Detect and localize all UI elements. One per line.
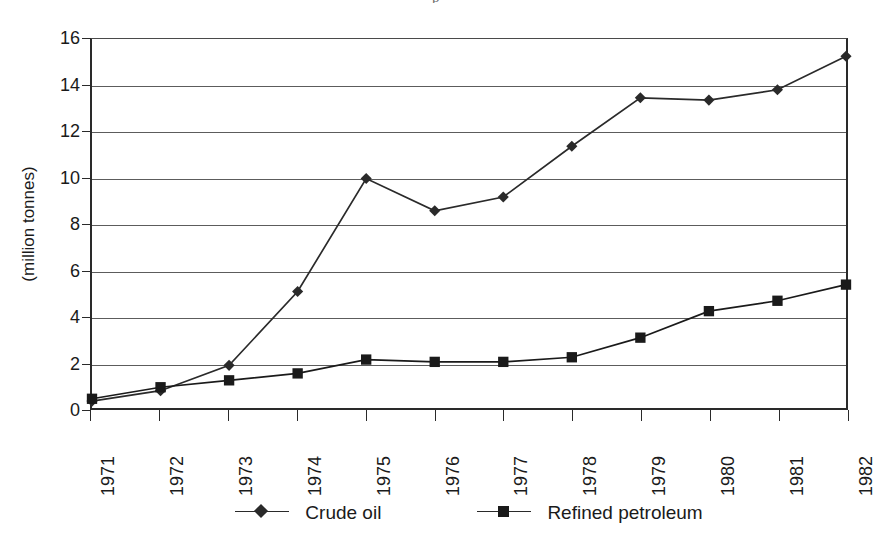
data-point-1976-8.55 — [429, 205, 440, 216]
x-tick-label-1980: 1980 — [719, 428, 737, 498]
data-point-1972-0.9 — [155, 382, 165, 392]
y-tick-label-10: 10 — [46, 169, 80, 187]
data-point-1981-4.65 — [772, 296, 782, 306]
series-refined-petroleum — [87, 279, 851, 403]
x-tick-1982 — [848, 410, 849, 421]
y-tick-2 — [82, 364, 91, 365]
y-tick-12 — [82, 131, 91, 132]
y-tick-label-6: 6 — [46, 262, 80, 280]
x-tick-label-1976: 1976 — [444, 428, 462, 498]
x-tick-label-text: 1973 — [237, 426, 255, 498]
y-tick-label-8: 8 — [46, 215, 80, 233]
x-tick-1977 — [503, 410, 504, 421]
diamond-marker-icon — [235, 505, 289, 519]
chart-legend: Crude oilRefined petroleum — [90, 496, 848, 528]
y-tick-8 — [82, 224, 91, 225]
x-tick-label-text: 1978 — [581, 426, 599, 498]
data-point-1975-9.95 — [361, 173, 372, 184]
clipped-text-artifact: p — [432, 0, 446, 3]
y-tick-label-4: 4 — [46, 308, 80, 326]
legend-item-crude-oil[interactable]: Crude oil — [235, 503, 381, 522]
x-tick-1975 — [366, 410, 367, 421]
plot-area — [90, 38, 848, 410]
x-tick-label-text: 1972 — [168, 426, 186, 498]
x-tick-label-1974: 1974 — [306, 428, 324, 498]
y-tick-label-12: 12 — [46, 122, 80, 140]
x-tick-label-1978: 1978 — [581, 428, 599, 498]
y-tick-10 — [82, 178, 91, 179]
x-tick-1979 — [641, 410, 642, 421]
series-line — [92, 56, 846, 401]
x-tick-label-1977: 1977 — [512, 428, 530, 498]
x-tick-1974 — [297, 410, 298, 421]
data-point-1973-1.2 — [224, 375, 234, 385]
y-tick-4 — [82, 317, 91, 318]
data-point-1980-13.35 — [703, 95, 714, 106]
y-tick-label-14: 14 — [46, 76, 80, 94]
x-tick-label-1972: 1972 — [168, 428, 186, 498]
x-tick-label-text: 1979 — [650, 426, 668, 498]
data-point-1982-15.25 — [840, 51, 851, 62]
data-point-1980-4.2 — [704, 306, 714, 316]
x-tick-label-text: 1971 — [99, 426, 117, 498]
x-tick-label-1979: 1979 — [650, 428, 668, 498]
data-point-1979-13.45 — [635, 92, 646, 103]
series-crude-oil — [86, 51, 851, 407]
data-point-1974-1.5 — [292, 368, 302, 378]
x-tick-label-1982: 1982 — [857, 428, 873, 498]
series-layer — [92, 39, 846, 408]
legend-label: Refined petroleum — [547, 503, 702, 522]
data-point-1979-3.05 — [635, 333, 645, 343]
y-tick-label-16: 16 — [46, 29, 80, 47]
x-tick-label-text: 1977 — [512, 426, 530, 498]
data-point-1981-13.8 — [772, 84, 783, 95]
y-tick-6 — [82, 271, 91, 272]
data-point-1976-2 — [430, 357, 440, 367]
data-point-1971-0.4 — [87, 394, 97, 404]
x-tick-label-text: 1981 — [788, 426, 806, 498]
series-line — [92, 285, 846, 399]
x-tick-1978 — [572, 410, 573, 421]
x-tick-label-text: 1982 — [857, 426, 873, 498]
y-tick-label-2: 2 — [46, 355, 80, 373]
x-tick-label-text: 1975 — [375, 426, 393, 498]
legend-diamond — [254, 504, 268, 518]
legend-item-refined-petroleum[interactable]: Refined petroleum — [477, 503, 702, 522]
x-tick-1976 — [435, 410, 436, 421]
x-tick-1973 — [228, 410, 229, 421]
x-tick-label-text: 1976 — [444, 426, 462, 498]
x-tick-label-1971: 1971 — [99, 428, 117, 498]
x-tick-label-1981: 1981 — [788, 428, 806, 498]
x-tick-1971 — [90, 410, 91, 421]
y-tick-14 — [82, 85, 91, 86]
x-tick-label-1973: 1973 — [237, 428, 255, 498]
x-tick-label-1975: 1975 — [375, 428, 393, 498]
data-point-1982-5.35 — [841, 279, 851, 289]
y-tick-16 — [82, 38, 91, 39]
legend-label: Crude oil — [305, 503, 381, 522]
data-point-1977-2 — [498, 357, 508, 367]
y-tick-label-0: 0 — [46, 401, 80, 419]
legend-square — [498, 506, 509, 517]
x-tick-1980 — [710, 410, 711, 421]
x-tick-label-text: 1974 — [306, 426, 324, 498]
x-tick-1981 — [779, 410, 780, 421]
data-point-1975-2.1 — [361, 354, 371, 364]
y-axis-tick-labels: 0246810121416 — [40, 0, 80, 543]
square-marker-icon — [477, 505, 531, 519]
x-tick-label-text: 1980 — [719, 426, 737, 498]
x-tick-1972 — [159, 410, 160, 421]
line-chart: p (million tonnes) 0246810121416 1971197… — [0, 0, 873, 543]
data-point-1978-2.2 — [567, 352, 577, 362]
